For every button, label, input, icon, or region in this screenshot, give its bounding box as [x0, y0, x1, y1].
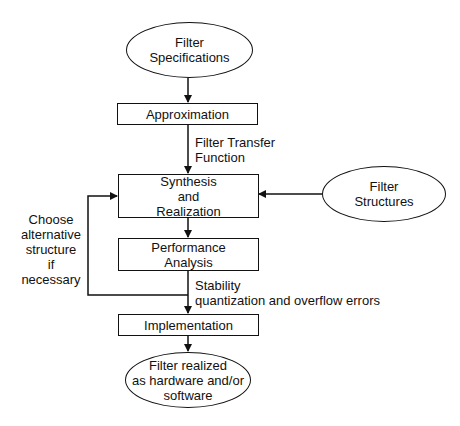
performance-analysis-node: Performance Analysis: [118, 238, 259, 271]
approximation-node: Approximation: [117, 103, 258, 125]
implementation-node: Implementation: [118, 314, 259, 336]
filter-structures-node: Filter Structures: [322, 166, 446, 222]
node-label: Synthesis and Realization: [156, 174, 220, 219]
transfer-function-label: Filter Transfer Function: [195, 135, 275, 165]
node-label: Filter Structures: [354, 179, 413, 209]
filter-specifications-node: Filter Specifications: [126, 22, 253, 78]
synthesis-realization-node: Synthesis and Realization: [118, 174, 259, 218]
feedback-label: Choose alternative structure if necessar…: [16, 212, 86, 287]
node-label: Implementation: [144, 318, 233, 333]
stability-label: Stability quantization and overflow erro…: [195, 278, 380, 308]
filter-realized-node: Filter realized as hardware and/or softw…: [125, 352, 251, 408]
node-label: Performance Analysis: [151, 240, 225, 270]
flowchart-canvas: Filter Specifications Approximation Filt…: [0, 0, 460, 426]
node-label: Filter realized as hardware and/or softw…: [132, 358, 244, 403]
node-label: Approximation: [146, 107, 229, 122]
node-label: Filter Specifications: [149, 35, 229, 65]
